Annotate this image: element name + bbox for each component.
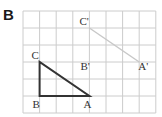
label-a: A — [83, 98, 91, 110]
label-b: B — [33, 98, 40, 110]
label-a-prime: A' — [138, 60, 148, 72]
label-b-prime: B' — [80, 60, 89, 72]
grid-diagram: C B A C' B' A' — [0, 0, 162, 117]
label-c-prime: C' — [79, 15, 88, 27]
label-c: C — [32, 49, 39, 61]
